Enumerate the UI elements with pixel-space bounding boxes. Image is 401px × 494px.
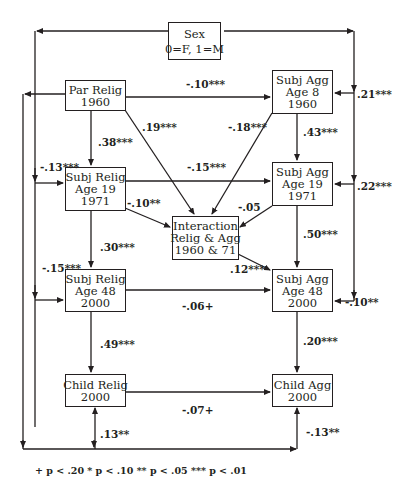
coef-relig19-interaction: -.10** (127, 197, 161, 209)
node-sex: Sex 0=F, 1=M (168, 22, 221, 60)
node-label: Child Agg (274, 379, 332, 391)
coef-sex-child-agg: -.13** (306, 426, 340, 438)
node-label: Subj Agg (276, 273, 329, 285)
node-interaction: Interaction Relig & Agg 1960 & 71 (172, 216, 239, 260)
node-label: Age 48 (75, 285, 116, 297)
node-label: Sex (184, 28, 205, 40)
node-label: 1971 (288, 190, 317, 202)
node-subj-agg-19: Subj Agg Age 19 1971 (272, 162, 333, 206)
coef-child-relig-child-agg: -.07+ (182, 404, 213, 416)
coef-par-relig-interaction: .19*** (142, 121, 177, 133)
coef-sex-agg19: .22*** (357, 180, 392, 192)
node-subj-relig-19: Subj Relig Age 19 1971 (65, 167, 126, 211)
node-label: 0=F, 1=M (165, 43, 224, 55)
node-label: 2000 (288, 391, 317, 403)
node-subj-agg-48: Subj Agg Age 48 2000 (272, 269, 333, 312)
coef-relig48-agg48: -.06+ (182, 300, 213, 312)
node-label: 2000 (81, 391, 110, 403)
coef-agg48-child-agg: .20*** (303, 335, 338, 347)
coef-sex-relig19: -.13*** (40, 161, 79, 173)
coef-par-relig-relig19: .38*** (98, 136, 133, 148)
coef-relig19-relig48: .30*** (100, 241, 135, 253)
node-child-relig: Child Relig 2000 (65, 374, 126, 407)
coef-relig19-agg19: -.15*** (187, 161, 226, 173)
node-label: Age 48 (282, 285, 323, 297)
coef-agg19-agg48: .50*** (303, 228, 338, 240)
significance-legend: + p < .20 * p < .10 ** p < .05 *** p < .… (35, 465, 247, 476)
coef-sex-agg8: .21*** (357, 88, 392, 100)
coef-agg8-agg19: .43*** (303, 126, 338, 138)
node-par-relig: Par Relig 1960 (65, 80, 126, 111)
node-child-agg: Child Agg 2000 (272, 374, 333, 407)
node-label: Subj Relig (65, 273, 125, 285)
node-label: Child Relig (63, 379, 128, 391)
node-label: 2000 (81, 297, 110, 309)
coef-sex-relig48: -.15*** (42, 262, 81, 274)
node-subj-relig-48: Subj Relig Age 48 2000 (65, 269, 126, 312)
node-label: 1960 & 71 (175, 244, 236, 256)
coef-sex-child-relig: .13** (100, 428, 129, 440)
node-label: 1960 (81, 96, 110, 108)
coef-par-relig-agg8: -.10*** (186, 78, 225, 90)
coef-relig48-child-relig: .49*** (100, 338, 135, 350)
node-label: 2000 (288, 297, 317, 309)
node-label: Par Relig (69, 84, 122, 96)
node-label: 1971 (81, 195, 110, 207)
node-label: 1960 (288, 98, 317, 110)
coef-sex-agg48: -.10** (345, 296, 379, 308)
coef-agg19-interaction: -.05 (238, 201, 261, 213)
coef-interaction-agg48: .12*** (230, 263, 265, 275)
coef-agg8-interaction: -.18*** (228, 121, 267, 133)
node-subj-agg-8: Subj Agg Age 8 1960 (272, 70, 333, 114)
